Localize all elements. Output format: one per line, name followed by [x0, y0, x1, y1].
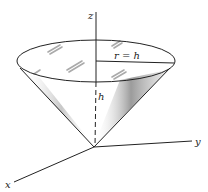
x-axis: [14, 147, 94, 182]
height-dashed-line: [95, 82, 96, 146]
radius-line: [96, 61, 174, 63]
z-axis-label: z: [87, 10, 94, 21]
disk-hatching: [34, 41, 126, 79]
x-axis-label: x: [5, 179, 11, 190]
y-axis: [94, 141, 192, 147]
radius-label: r = h: [114, 50, 140, 61]
cone-diagram: z r = h h y x: [0, 0, 208, 192]
cone-left-edge: [20, 68, 94, 147]
y-axis-label: y: [194, 136, 201, 147]
height-label: h: [98, 91, 104, 102]
